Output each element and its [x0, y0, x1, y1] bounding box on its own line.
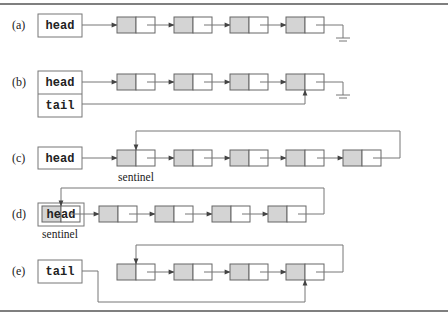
panel-label-d: (d) — [12, 207, 26, 221]
panel-a: (a) head — [12, 14, 350, 41]
panel-e: (e) tail — [12, 245, 343, 302]
head-label: head — [46, 19, 75, 33]
sentinel-caption: sentinel — [118, 171, 154, 183]
linked-list-diagram: (a) head (b) head tail — [0, 0, 448, 314]
tail-arrow — [82, 90, 305, 104]
panel-c: (c) head sentinel — [12, 131, 400, 183]
tail-label: tail — [46, 265, 75, 279]
sentinel-caption: sentinel — [42, 228, 78, 240]
panel-b: (b) head tail — [12, 71, 350, 117]
tail-label: tail — [46, 99, 75, 113]
panel-label-a: (a) — [12, 18, 25, 32]
panel-label-c: (c) — [12, 151, 25, 165]
head-label: head — [46, 76, 75, 90]
head-label: head — [46, 152, 75, 166]
panel-d: (d) head sentinel — [12, 188, 324, 240]
panel-label-b: (b) — [12, 75, 26, 89]
head-label: head — [47, 208, 76, 222]
panel-label-e: (e) — [12, 264, 25, 278]
